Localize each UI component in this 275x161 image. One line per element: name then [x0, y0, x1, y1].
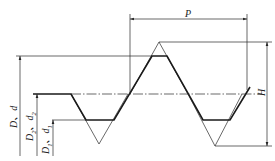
thread-profile-diagram: P H D、d D2、d2 D1、d1	[0, 0, 275, 161]
height-label: H	[256, 88, 267, 97]
major-diameter-label: D、d	[8, 105, 19, 129]
pitch-diameter-label: D2、d2	[24, 112, 37, 142]
minor-diameter-label: D1、d1	[40, 125, 53, 155]
pitch-label: P	[184, 8, 191, 19]
basic-profile	[33, 56, 250, 120]
